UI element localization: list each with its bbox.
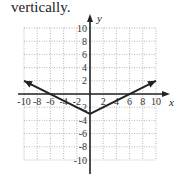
y-axis-label: y <box>96 12 102 24</box>
x-tick-label: -8 <box>33 96 41 107</box>
y-tick-label: -4 <box>79 115 87 126</box>
y-tick-label: -10 <box>74 155 87 166</box>
y-tick-label: 10 <box>77 23 87 34</box>
y-tick-label: 2 <box>82 75 87 86</box>
y-tick-label: -8 <box>79 141 87 152</box>
graph: xy-10-8-6-4-2246810108642-2-4-6-8-10 <box>0 0 183 174</box>
x-tick-label: 10 <box>151 96 161 107</box>
y-tick-label: 8 <box>82 36 87 47</box>
x-tick-label: 8 <box>140 96 145 107</box>
y-tick-label: 6 <box>82 49 87 60</box>
x-tick-label: -10 <box>17 96 30 107</box>
y-tick-label: -6 <box>79 128 87 139</box>
x-axis-label: x <box>168 96 174 108</box>
x-tick-label: 6 <box>127 96 132 107</box>
y-tick-label: 4 <box>82 62 87 73</box>
x-tick-label: -6 <box>46 96 54 107</box>
y-axis-arrow-icon <box>87 14 93 22</box>
